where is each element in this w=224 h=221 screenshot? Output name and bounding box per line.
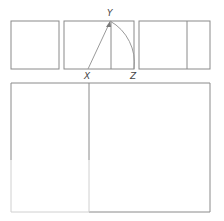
label-x: X xyxy=(83,71,91,81)
step2-arrow-line xyxy=(88,24,109,69)
step2-construction: Y X Z xyxy=(64,8,137,81)
label-y: Y xyxy=(107,8,114,18)
step3-rectangle xyxy=(139,21,210,69)
step3-outer-rect xyxy=(139,21,210,69)
step4-large-rectangle xyxy=(11,83,210,212)
step2-arc xyxy=(110,21,134,69)
step1-square xyxy=(11,21,59,69)
golden-rectangle-diagram: Y X Z xyxy=(0,0,224,221)
label-z: Z xyxy=(129,71,137,81)
arrowhead-icon xyxy=(106,21,111,27)
